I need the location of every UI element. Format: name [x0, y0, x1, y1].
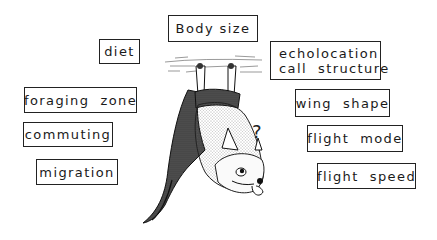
label-text: commuting — [25, 127, 111, 142]
label-text: foraging zone — [24, 93, 137, 108]
question-mark-icon: ? — [252, 121, 262, 142]
label-text: migration — [39, 165, 114, 180]
label-flight-mode: flight mode — [307, 125, 403, 152]
label-text: Body size — [176, 21, 251, 36]
label-body-size: Body size — [168, 15, 258, 42]
ceiling-icon — [165, 56, 262, 72]
bat-illustration: ? — [130, 48, 315, 233]
label-text: flight mode — [307, 131, 402, 146]
label-foraging-zone: foraging zone — [24, 87, 137, 113]
label-commuting: commuting — [23, 122, 113, 147]
label-text: flight speed — [317, 169, 416, 184]
label-migration: migration — [36, 159, 118, 185]
label-flight-speed: flight speed — [317, 163, 416, 189]
wing-icon — [143, 90, 205, 223]
